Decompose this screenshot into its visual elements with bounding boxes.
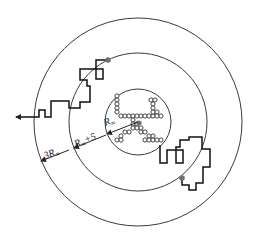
particle [143,130,147,134]
particle [123,130,127,134]
launch-point-dot [105,57,111,63]
radius-labels: R∞ R∞+5 3R∞ [41,114,117,163]
particle-cluster [115,94,163,142]
particle [159,114,163,118]
launch-point-dot [179,175,185,181]
sticking-walk [160,137,210,190]
label-launch-radius: R∞+5 [71,130,97,150]
particle [119,138,123,142]
seed-particle [136,120,141,125]
dla-diagram: R∞ R∞+5 3R∞ [0,0,260,241]
escaping-walk [16,60,108,117]
label-inner-radius: R∞ [101,114,117,130]
particle [115,110,119,114]
particle [159,138,163,142]
particle [153,98,157,102]
